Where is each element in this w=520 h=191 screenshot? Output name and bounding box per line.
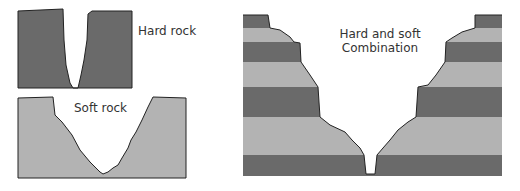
layer-soft-2 — [243, 62, 503, 87]
soft-rock-label: Soft rock — [74, 101, 127, 115]
combination-label-line1: Hard and soft — [330, 27, 430, 41]
combination-label-line2: Combination — [330, 41, 430, 55]
layer-soft-3 — [243, 117, 503, 155]
hard-rock-label: Hard rock — [138, 24, 196, 38]
hard-rock-profile — [18, 9, 132, 88]
layer-hard-4 — [243, 155, 503, 176]
diagram-canvas — [0, 0, 520, 191]
layer-hard-3 — [243, 87, 503, 117]
